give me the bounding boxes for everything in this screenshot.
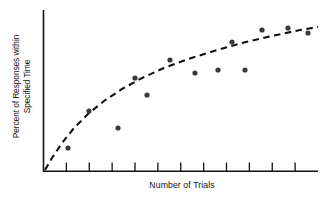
scatter-chart-figure: Percent of Responses within Specified Ti…	[0, 0, 330, 202]
data-point	[259, 27, 264, 32]
trend-curve	[45, 27, 318, 170]
data-point	[65, 145, 70, 150]
data-point	[229, 39, 234, 44]
data-point	[215, 67, 220, 72]
data-point-series	[65, 25, 310, 150]
plot-area	[0, 0, 330, 202]
x-axis-ticks	[66, 163, 295, 172]
data-point	[132, 75, 137, 80]
data-point	[144, 92, 149, 97]
data-point	[86, 108, 91, 113]
data-point	[242, 67, 247, 72]
data-point	[167, 57, 172, 62]
data-point	[115, 125, 120, 130]
data-point	[285, 25, 290, 30]
x-axis-title: Number of Trials	[44, 180, 320, 190]
data-point	[192, 70, 197, 75]
data-point	[305, 30, 310, 35]
trend-curve-path	[45, 27, 318, 170]
